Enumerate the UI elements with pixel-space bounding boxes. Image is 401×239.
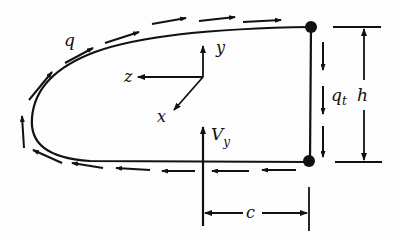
- axis-x-label: x: [157, 107, 166, 126]
- shear-flow-skin-label: q: [64, 30, 75, 50]
- shear-load-label: Vy: [211, 124, 230, 149]
- diagram-canvas: h q qt y z x Vy c: [0, 0, 401, 239]
- axis-y-label: y: [215, 38, 226, 57]
- web: [310, 27, 311, 161]
- offset-label: c: [246, 203, 255, 222]
- height-label: h: [357, 85, 368, 105]
- shear-flow-diagram: h q qt y z x Vy c: [0, 0, 401, 239]
- offset-dimension: [205, 187, 309, 231]
- coordinate-axes: [138, 46, 203, 110]
- boom-bottom: [303, 155, 315, 167]
- shear-flow-web-label: qt: [331, 85, 347, 108]
- boom-top: [305, 21, 317, 33]
- axis-z-label: z: [123, 67, 133, 86]
